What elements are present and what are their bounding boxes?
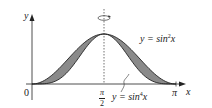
tick-label-pi-half-numerator: π [99,89,105,99]
y-axis-arrow-icon [30,14,35,21]
label-leader [121,74,129,92]
origin-label: 0 [24,88,29,98]
curve-label-sin4: y = sin4x [112,91,147,102]
curve-label-sin2: y = sin2x [140,33,175,44]
x-axis-arrow-icon [179,82,186,87]
curve-label-sin4-var: x [143,91,147,102]
y-axis-label: y [24,11,28,21]
curve-label-sin4-text: y = sin [112,91,140,102]
x-axis-label: x [186,87,190,97]
tick-label-pi: π [172,88,177,98]
curve-label-sin2-text: y = sin [140,33,168,44]
plot-area [0,0,212,108]
tick-label-pi-half-denominator: 2 [99,99,105,108]
tick-label-pi-half: π 2 [99,89,105,108]
curve-label-sin2-var: x [171,33,175,44]
